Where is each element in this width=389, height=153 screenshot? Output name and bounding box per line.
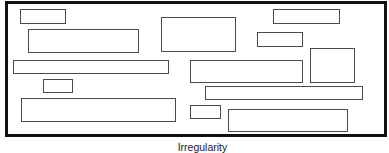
rectangle-8 [190, 60, 303, 83]
rectangle-5 [257, 32, 303, 47]
rectangle-10 [205, 86, 363, 100]
caption: Irregularity [0, 141, 389, 153]
rectangle-7 [13, 60, 169, 74]
caption-text: Irregularity [178, 141, 228, 153]
rectangle-6 [310, 48, 355, 83]
rectangle-2 [28, 29, 139, 53]
rectangle-9 [43, 79, 73, 93]
rectangle-12 [190, 105, 221, 119]
rectangle-3 [161, 17, 236, 52]
rectangle-13 [228, 109, 348, 132]
rectangle-11 [21, 98, 176, 122]
rectangle-4 [273, 9, 340, 24]
rectangle-1 [20, 9, 66, 24]
